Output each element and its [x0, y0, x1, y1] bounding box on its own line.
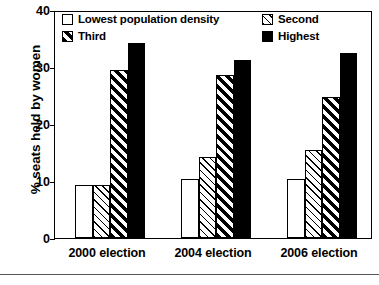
bar — [110, 70, 128, 238]
bar — [305, 150, 323, 238]
x-axis-tick-label: 2000 election — [54, 246, 160, 260]
legend-label: Third — [78, 31, 106, 43]
bar — [93, 185, 111, 238]
bar — [287, 179, 305, 238]
legend-item-highest: Highest — [262, 31, 319, 43]
legend-label: Lowest population density — [78, 14, 219, 26]
x-axis-tick-label: 2006 election — [266, 246, 372, 260]
legend-swatch-icon — [262, 31, 273, 42]
y-axis-tick-labels: 010203040 — [10, 0, 50, 285]
legend-swatch-icon — [62, 14, 73, 25]
y-axis-tick — [50, 239, 55, 240]
y-axis-tick-label: 30 — [22, 62, 50, 75]
bar — [234, 60, 252, 238]
bar — [128, 43, 146, 238]
x-axis-tick-labels: 2000 election2004 election2006 election — [54, 246, 372, 266]
bar — [322, 97, 340, 238]
bar — [199, 157, 217, 239]
y-axis-tick-label: 0 — [22, 233, 50, 246]
x-axis-tick-label: 2004 election — [160, 246, 266, 260]
legend-label: Second — [278, 14, 319, 26]
legend-item-third: Third — [62, 31, 106, 43]
legend-item-second: Second — [262, 14, 319, 26]
chart-legend: Lowest population density Second Third H… — [62, 14, 362, 48]
chart-figure: % seats held by women 010203040 Lowest p… — [0, 0, 379, 285]
legend-label: Highest — [278, 31, 319, 43]
figure-bottom-rule — [0, 274, 379, 275]
legend-swatch-icon — [262, 14, 273, 25]
y-axis-tick-label: 40 — [22, 5, 50, 18]
bar — [340, 53, 358, 238]
bar — [75, 185, 93, 238]
bar — [181, 179, 199, 238]
bar — [216, 75, 234, 238]
legend-swatch-icon — [62, 31, 73, 42]
y-axis-tick-label: 20 — [22, 119, 50, 132]
y-axis-tick-label: 10 — [22, 176, 50, 189]
legend-item-lowest-population-density: Lowest population density — [62, 14, 219, 26]
